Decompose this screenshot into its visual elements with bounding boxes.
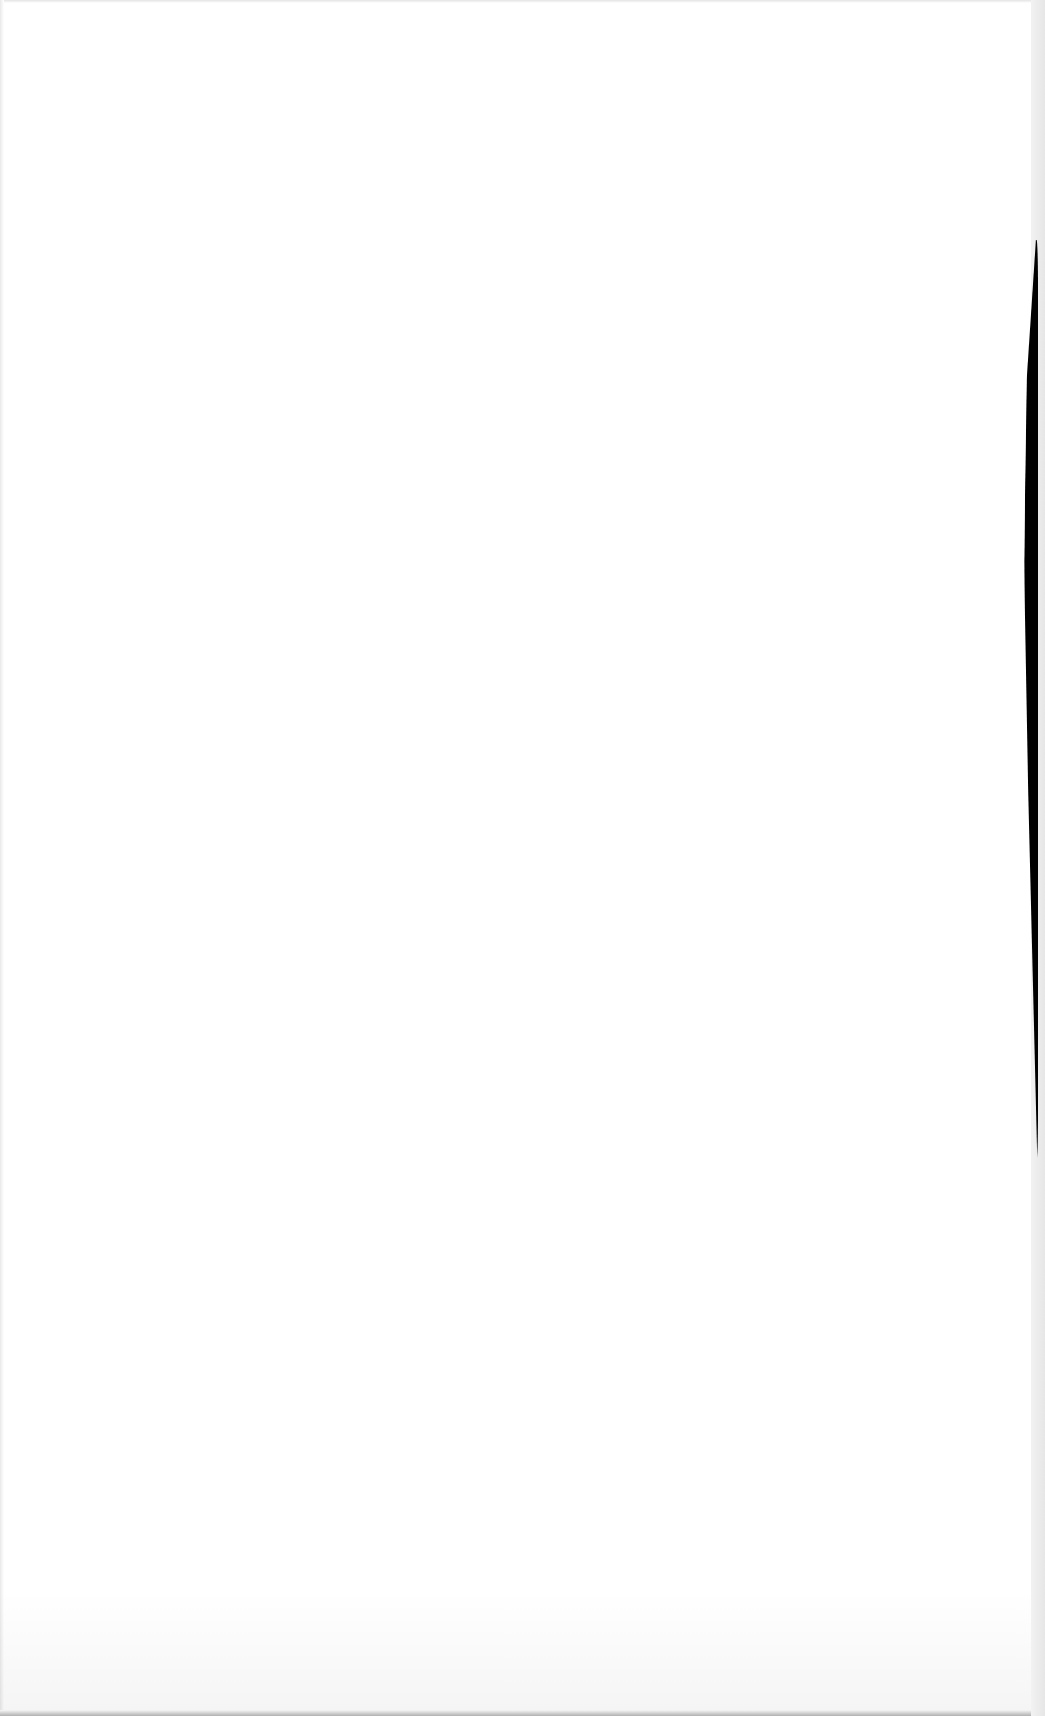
page-top-edge xyxy=(0,0,1045,3)
page-bottom-edge xyxy=(0,1710,1045,1716)
page-bottom-shading xyxy=(0,1590,1045,1710)
blank-document-page xyxy=(0,0,1045,1716)
page-left-edge xyxy=(0,0,4,1716)
